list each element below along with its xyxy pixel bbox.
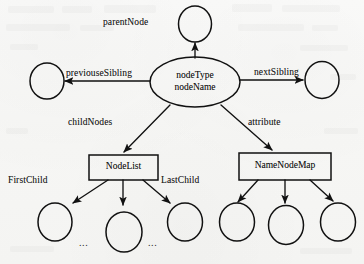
- ellipsis-right: ...: [148, 238, 157, 248]
- next-sibling-circle: [305, 62, 339, 99]
- middle-child-circle: [106, 212, 142, 252]
- center-node-line1: nodeType: [155, 70, 235, 82]
- label-first-child: FirstChild: [8, 176, 48, 186]
- label-parent-node: parentNode: [103, 18, 148, 28]
- parent-node-circle: [179, 6, 212, 42]
- label-child-nodes: childNodes: [68, 118, 112, 128]
- diagram-connectors: [0, 0, 364, 264]
- edge-first-child: [73, 180, 108, 203]
- label-last-child: LastChild: [161, 176, 199, 186]
- label-previous-sibling: previouseSibling: [66, 69, 132, 79]
- center-node-line2: nodeName: [155, 82, 235, 94]
- edge-child-nodes: [124, 105, 170, 152]
- name-node-map-label: NameNodeMap: [239, 160, 331, 172]
- previous-sibling-circle: [30, 63, 64, 99]
- node-list-label: NodeList: [89, 161, 158, 173]
- attr-first-circle: [220, 203, 255, 241]
- attr-middle-circle: [269, 206, 304, 245]
- last-child-circle: [168, 203, 203, 241]
- edge-attr-first: [238, 180, 258, 202]
- center-node-label: nodeType nodeName: [155, 70, 235, 93]
- first-child-circle: [38, 203, 72, 241]
- dom-node-diagram: nodeType nodeName parentNode previouseSi…: [0, 0, 364, 264]
- attr-last-circle: [321, 203, 356, 241]
- edge-attr-last: [310, 180, 333, 201]
- label-next-sibling: nextSibling: [254, 68, 299, 78]
- label-attribute: attribute: [248, 118, 281, 128]
- ellipsis-left: ...: [79, 238, 88, 248]
